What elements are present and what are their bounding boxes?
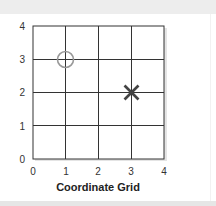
x-tick-1: 1 [63,166,69,177]
x-tick-3: 3 [128,166,134,177]
y-tick-0: 0 [19,154,25,165]
x-tick-2: 2 [95,166,101,177]
y-tick-3: 3 [19,54,25,65]
y-tick-4: 4 [19,21,25,32]
y-tick-2: 2 [19,87,25,98]
coordinate-grid-chart: 4 3 2 1 0 0 1 2 3 4 Coordinate Grid [0,0,216,206]
y-tick-1: 1 [19,121,25,132]
chart-title: Coordinate Grid [56,181,140,193]
x-tick-0: 0 [30,166,36,177]
x-tick-4: 4 [161,166,167,177]
